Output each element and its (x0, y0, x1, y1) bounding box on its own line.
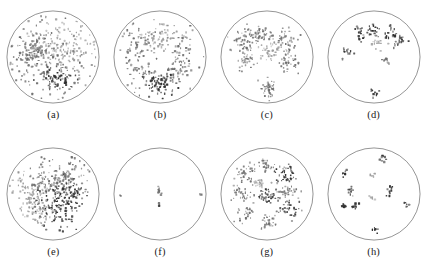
data-point (373, 173, 375, 175)
data-point (374, 40, 375, 41)
data-point (293, 60, 295, 61)
data-point (281, 31, 282, 33)
data-point (140, 52, 141, 54)
data-point (59, 38, 61, 40)
data-point (267, 164, 268, 166)
data-point (167, 29, 168, 31)
data-point (264, 49, 266, 50)
data-point (29, 176, 31, 178)
data-point (12, 63, 14, 64)
data-point (57, 191, 59, 192)
data-point (62, 200, 64, 202)
data-point (164, 29, 166, 30)
data-point (247, 29, 249, 31)
data-point (52, 210, 54, 212)
data-point (380, 160, 382, 161)
data-point (65, 176, 67, 178)
data-point (237, 185, 238, 187)
data-point (153, 35, 154, 37)
data-point (166, 83, 168, 85)
data-point (189, 52, 190, 53)
data-point (54, 83, 56, 84)
data-point (20, 180, 22, 182)
data-point (244, 35, 245, 37)
data-point (251, 210, 252, 212)
data-point (156, 86, 158, 87)
data-point (238, 38, 239, 40)
data-point (131, 33, 133, 34)
data-point (264, 90, 265, 92)
data-point (263, 92, 264, 94)
data-point (256, 185, 257, 186)
data-point (51, 34, 52, 36)
data-point (283, 170, 285, 171)
data-point (78, 74, 80, 76)
data-point (248, 166, 249, 167)
data-point (70, 50, 71, 52)
data-point (77, 21, 78, 22)
data-point (58, 185, 60, 187)
data-point (12, 68, 14, 70)
data-point (140, 34, 141, 35)
data-point (184, 62, 185, 64)
data-point (381, 59, 383, 60)
data-point (57, 206, 59, 207)
data-point (142, 76, 144, 78)
data-point (179, 43, 180, 46)
data-point (140, 37, 142, 39)
data-point (374, 41, 375, 43)
data-point (71, 219, 73, 220)
data-point (236, 189, 238, 190)
data-point (260, 55, 261, 56)
data-point (200, 193, 202, 195)
data-point (41, 19, 43, 21)
data-point (16, 79, 18, 81)
data-point (351, 206, 353, 208)
data-point (25, 42, 26, 43)
data-point (369, 33, 371, 35)
data-point (138, 56, 140, 57)
data-point (229, 49, 231, 51)
data-point (36, 82, 38, 84)
data-point (284, 167, 285, 169)
data-point (52, 221, 54, 222)
data-point (69, 197, 70, 199)
data-point (257, 180, 259, 181)
data-point (175, 45, 177, 47)
data-point (253, 64, 255, 66)
data-point (279, 190, 281, 192)
data-point (374, 30, 375, 32)
data-point (42, 225, 44, 227)
data-point (256, 38, 257, 39)
data-point (180, 61, 181, 62)
data-point (95, 56, 96, 58)
data-point (145, 40, 147, 42)
data-point (26, 202, 28, 204)
data-point (72, 68, 74, 70)
data-point (257, 79, 259, 81)
data-point (185, 50, 187, 51)
data-point (250, 196, 251, 198)
data-point (55, 86, 57, 88)
data-point (242, 60, 243, 61)
data-point (268, 95, 269, 97)
data-point (136, 46, 138, 48)
data-point (251, 42, 253, 44)
data-point (43, 210, 44, 212)
data-point (154, 80, 155, 82)
data-point (288, 31, 290, 32)
data-point (237, 31, 238, 32)
data-point (40, 175, 42, 176)
data-point (350, 186, 352, 188)
data-point (20, 58, 22, 59)
data-point (77, 55, 79, 56)
data-point (172, 33, 173, 34)
panel-h: (h) (320, 137, 427, 274)
data-point (36, 39, 37, 41)
data-point (240, 44, 242, 46)
data-point (283, 175, 284, 177)
data-point (264, 198, 266, 199)
data-point (264, 192, 266, 194)
data-point (289, 215, 291, 216)
data-point (244, 28, 245, 30)
